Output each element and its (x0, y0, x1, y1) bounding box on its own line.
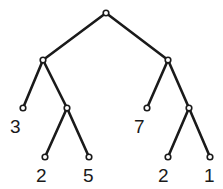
leaf-node (144, 105, 150, 111)
leaf-labels: 325721 (10, 116, 215, 186)
leaf-value-label: 2 (36, 165, 47, 186)
internal-node (103, 10, 109, 16)
tree-edge (106, 13, 168, 60)
leaf-value-label: 1 (204, 165, 215, 186)
tree-edge (168, 108, 189, 157)
leaf-node (207, 154, 213, 160)
leaf-value-label: 3 (10, 116, 21, 137)
leaf-node (20, 105, 26, 111)
leaf-value-label: 2 (158, 165, 169, 186)
tree-nodes (20, 10, 213, 160)
leaf-node (165, 154, 171, 160)
tree-edge (45, 108, 67, 157)
tree-edge (43, 60, 67, 108)
leaf-node (86, 154, 92, 160)
internal-node (40, 57, 46, 63)
internal-node (186, 105, 192, 111)
tree-edge (23, 60, 43, 108)
leaf-value-label: 7 (134, 116, 145, 137)
tree-edges (23, 13, 210, 157)
internal-node (165, 57, 171, 63)
tree-edge (67, 108, 89, 157)
tree-edge (168, 60, 189, 108)
tree-edge (43, 13, 106, 60)
binary-tree-diagram: 325721 (0, 0, 223, 189)
leaf-value-label: 5 (83, 165, 94, 186)
tree-edge (189, 108, 210, 157)
internal-node (64, 105, 70, 111)
tree-edge (147, 60, 168, 108)
leaf-node (42, 154, 48, 160)
